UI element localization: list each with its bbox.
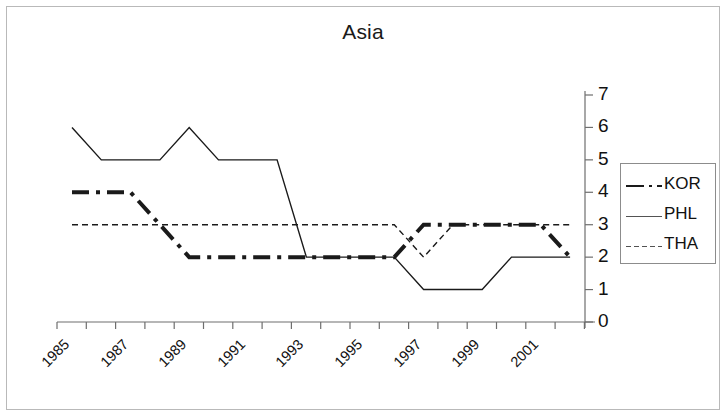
legend-item-tha[interactable]: THA bbox=[626, 233, 714, 255]
y-axis-tick-label: 4 bbox=[598, 180, 620, 202]
axes-group bbox=[57, 91, 595, 329]
chart-figure: Asia 19851987198919911993199519971999200… bbox=[0, 0, 726, 416]
y-axis-tick-label: 7 bbox=[598, 83, 620, 105]
legend-label-kor: KOR bbox=[664, 173, 701, 195]
legend-swatch-phl bbox=[626, 213, 662, 217]
legend-label-tha: THA bbox=[664, 233, 698, 255]
legend-label-phl: PHL bbox=[664, 203, 697, 225]
legend-item-phl[interactable]: PHL bbox=[626, 203, 714, 225]
y-axis-tick-label: 5 bbox=[598, 148, 620, 170]
y-axis-tick-label: 6 bbox=[598, 115, 620, 137]
series-group bbox=[72, 127, 570, 289]
chart-legend: KORPHLTHA bbox=[620, 163, 716, 264]
y-axis-tick-label: 1 bbox=[598, 278, 620, 300]
y-axis-tick-label: 3 bbox=[598, 213, 620, 235]
series-line-tha bbox=[72, 225, 570, 257]
legend-swatch-kor bbox=[626, 183, 662, 187]
legend-swatch-tha bbox=[626, 243, 662, 247]
legend-item-kor[interactable]: KOR bbox=[626, 173, 714, 195]
y-axis-tick-label: 0 bbox=[598, 310, 620, 332]
y-axis-tick-label: 2 bbox=[598, 245, 620, 267]
